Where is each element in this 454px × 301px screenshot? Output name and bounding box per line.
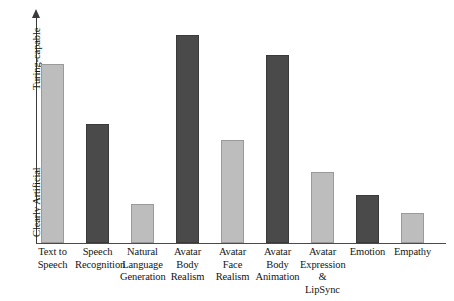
bar-natural-language-generation: [131, 204, 154, 243]
x-axis-category-labels: Text toSpeechSpeechRecognitionNaturalLan…: [36, 246, 446, 301]
category-label-line: & LipSync: [300, 271, 345, 296]
category-label-line: Expression: [300, 259, 345, 272]
bar-speech-recognition: [86, 124, 109, 243]
plot-area: [36, 14, 446, 243]
category-label-line: Avatar: [255, 246, 300, 259]
bar-chart: Turing-capable Clearly Artificial Text t…: [0, 0, 454, 301]
category-label-line: Body: [165, 259, 210, 272]
category-label-line: Animation: [255, 271, 300, 284]
bar-avatar-body-animation: [266, 55, 289, 243]
category-label-text-to-speech: Text toSpeech: [30, 246, 75, 271]
category-label-line: Speech: [75, 246, 120, 259]
category-label-natural-language-generation: NaturalLanguageGeneration: [120, 246, 165, 284]
category-label-avatar-body-animation: AvatarBodyAnimation: [255, 246, 300, 284]
category-label-line: Realism: [165, 271, 210, 284]
category-label-empathy: Empathy: [390, 246, 435, 259]
bar-emotion: [356, 195, 379, 243]
x-axis-line: [36, 243, 446, 244]
bar-text-to-speech: [41, 64, 64, 243]
category-label-line: Avatar: [165, 246, 210, 259]
category-label-line: Empathy: [390, 246, 435, 259]
category-label-line: Emotion: [345, 246, 390, 259]
category-label-line: Avatar: [210, 246, 255, 259]
category-label-line: Text to: [30, 246, 75, 259]
category-label-line: Speech: [30, 259, 75, 272]
category-label-line: Face: [210, 259, 255, 272]
bar-empathy: [401, 213, 424, 243]
category-label-line: Natural: [120, 246, 165, 259]
category-label-line: Recognition: [75, 259, 120, 272]
bar-avatar-face-realism: [221, 140, 244, 243]
category-label-avatar-body-realism: AvatarBodyRealism: [165, 246, 210, 284]
category-label-speech-recognition: SpeechRecognition: [75, 246, 120, 271]
category-label-line: Language: [120, 259, 165, 272]
bar-avatar-expression-lipsync: [311, 172, 334, 243]
category-label-avatar-expression-lipsync: AvatarExpression& LipSync: [300, 246, 345, 296]
category-label-emotion: Emotion: [345, 246, 390, 259]
category-label-line: Generation: [120, 271, 165, 284]
category-label-line: Body: [255, 259, 300, 272]
bar-avatar-body-realism: [176, 35, 199, 243]
category-label-line: Realism: [210, 271, 255, 284]
category-label-avatar-face-realism: AvatarFaceRealism: [210, 246, 255, 284]
category-label-line: Avatar: [300, 246, 345, 259]
